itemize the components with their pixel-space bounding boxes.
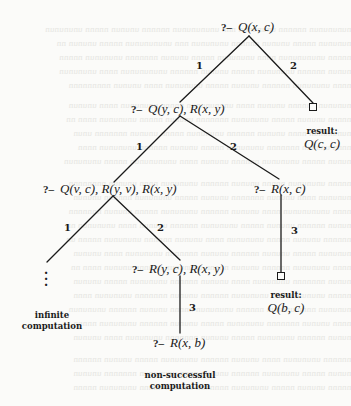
edge-label-n1-n2: 1 (136, 141, 143, 152)
edge-label-n2-infinite: 1 (64, 222, 71, 233)
goal-text: Q(v, c), R(y, v), R(x, y) (60, 181, 177, 196)
edge-label-n1-n3: 2 (230, 141, 237, 152)
edge-label-n2-n4: 2 (157, 222, 164, 233)
result-value: Q(c, c) (298, 137, 346, 151)
caption-line-2: computation (138, 381, 222, 392)
query-prefix: ?– (254, 183, 265, 195)
node-n2: ?–Q(v, c), R(y, v), R(x, y) (43, 181, 177, 197)
caption-line-2: computation (18, 321, 86, 332)
query-prefix: ?– (153, 337, 164, 349)
result-value: Q(b, c) (262, 301, 310, 315)
node-n4: ?–R(y, c), R(x, y) (132, 261, 224, 277)
query-prefix: ?– (131, 103, 142, 115)
query-prefix: ?– (43, 183, 54, 195)
edge-n2-n4 (113, 196, 180, 260)
non-successful-computation-annotation: non-successful computation (138, 370, 222, 392)
edge-root-n1 (180, 36, 249, 102)
goal-text: R(x, c) (271, 181, 306, 196)
edge-root-success1 (249, 36, 313, 103)
query-prefix: ?– (221, 21, 232, 33)
node-n1: ?–Q(y, c), R(x, y) (131, 101, 225, 117)
edge-label-n4-n5: 3 (189, 302, 196, 313)
edge-label-n3-success2: 3 (291, 225, 298, 236)
edge-label-root-success1: 2 (290, 60, 297, 71)
edge-n1-n2 (114, 116, 180, 182)
node-n3: ?–R(x, c) (254, 181, 306, 197)
continuation-dots-icon: ··· (44, 270, 48, 288)
node-root: ?–Q(x, c) (221, 19, 274, 35)
edge-label-root-n1: 1 (196, 60, 203, 71)
infinite-computation-annotation: infinite computation (18, 310, 86, 332)
success-box-1 (309, 103, 317, 111)
goal-text: Q(y, c), R(x, y) (148, 101, 225, 116)
caption-line-1: non-successful (138, 370, 222, 381)
goal-text: R(x, b) (170, 335, 205, 350)
edge-n2-infinite (47, 196, 113, 262)
caption-line-1: infinite (18, 310, 86, 321)
goal-text: Q(x, c) (238, 19, 274, 34)
result-annotation-2: result: Q(b, c) (262, 290, 310, 315)
node-n5: ?–R(x, b) (153, 335, 205, 351)
query-prefix: ?– (132, 263, 143, 275)
goal-text: R(y, c), R(x, y) (149, 261, 224, 276)
result-annotation-1: result: Q(c, c) (298, 126, 346, 151)
success-box-2 (277, 272, 285, 280)
